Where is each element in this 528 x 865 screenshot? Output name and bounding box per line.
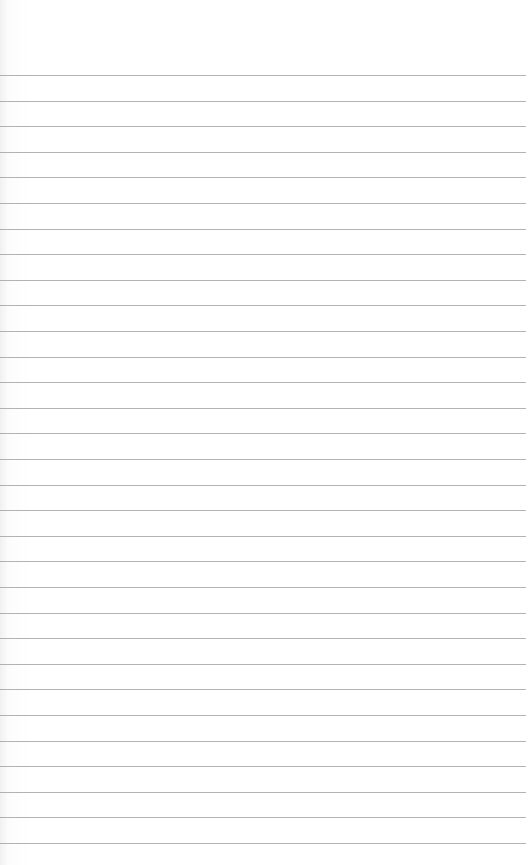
ruled-line <box>0 741 526 742</box>
ruled-line <box>0 792 526 793</box>
ruled-line <box>0 75 526 76</box>
ruled-line <box>0 715 526 716</box>
ruled-line <box>0 280 526 281</box>
ruled-line <box>0 229 526 230</box>
ruled-line <box>0 638 526 639</box>
ruled-line <box>0 689 526 690</box>
ruled-line <box>0 357 526 358</box>
ruled-line <box>0 408 526 409</box>
bottom-bleed-through <box>0 852 528 862</box>
ruled-line <box>0 587 526 588</box>
ruled-line <box>0 485 526 486</box>
ruled-line <box>0 459 526 460</box>
ruled-line <box>0 510 526 511</box>
lined-paper-sheet <box>0 0 528 865</box>
top-bleed-through <box>0 2 528 12</box>
ruled-line <box>0 126 526 127</box>
ruled-line <box>0 331 526 332</box>
ruled-line <box>0 177 526 178</box>
ruled-line <box>0 382 526 383</box>
ruled-line <box>0 613 526 614</box>
ruled-line <box>0 433 526 434</box>
ruled-line <box>0 305 526 306</box>
ruled-line <box>0 843 526 844</box>
ruled-line <box>0 203 526 204</box>
ruled-line <box>0 101 526 102</box>
ruled-line <box>0 664 526 665</box>
ruled-line <box>0 766 526 767</box>
ruled-line <box>0 254 526 255</box>
ruled-line <box>0 536 526 537</box>
ruled-line <box>0 561 526 562</box>
ruled-line <box>0 817 526 818</box>
ruled-line <box>0 152 526 153</box>
